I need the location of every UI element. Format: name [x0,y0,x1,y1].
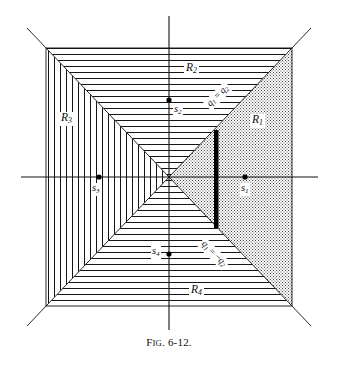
region-label-r2: R2 [184,62,199,76]
figure-drawing [0,0,338,365]
source-point-s2 [166,97,171,102]
region-label-r2-subscript: 2 [193,66,197,75]
region-label-r1: R1 [250,114,265,128]
source-point-s1 [242,174,247,179]
region-label-r1-text: R [252,113,259,125]
source-label-s1: s1 [240,183,250,196]
aperture-bar [214,130,219,228]
caption-smallcaps: IG [153,338,162,348]
caption-number: . 6-12. [162,336,192,348]
source-point-s4 [166,251,171,256]
region-label-r3-text: R [61,111,68,123]
region-label-r4: R4 [189,284,204,298]
source-label-s4-subscript: 4 [156,250,160,258]
region-label-r2-text: R [186,61,193,73]
figure-container: R1 R2 R3 R4 s1 s2 s3 s4 q1 = q2 q1 = −q2… [0,0,338,365]
source-label-s4: s4 [151,246,161,259]
source-label-s2-subscript: 2 [178,108,182,116]
source-point-s3 [96,174,101,179]
region-label-r4-subscript: 4 [198,288,202,297]
source-label-s1-subscript: 1 [245,187,249,195]
region-label-r3-subscript: 3 [68,116,72,125]
source-label-s2: s2 [173,104,183,117]
region-label-r1-subscript: 1 [259,118,263,127]
source-label-s3-subscript: 3 [96,187,100,195]
region-label-r4-text: R [191,283,198,295]
figure-caption: FIG. 6-12. [0,336,338,348]
source-label-s3: s3 [91,183,101,196]
region-label-r3: R3 [59,112,74,126]
